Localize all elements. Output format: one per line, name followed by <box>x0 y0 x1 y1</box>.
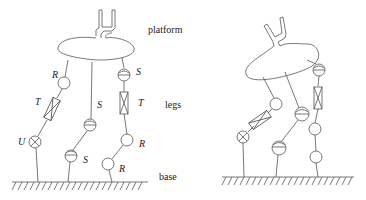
gripper-icon <box>96 10 115 38</box>
platform-label: platform <box>148 24 183 35</box>
revolute-joint-icon <box>309 123 321 135</box>
revolute-joint-icon <box>121 134 133 146</box>
platform-shape <box>58 33 134 60</box>
leg-3 <box>102 58 133 182</box>
joint-label: S <box>97 99 102 110</box>
universal-joint-icon <box>29 136 41 148</box>
spherical-joint-icon <box>118 69 130 81</box>
revolute-joint-icon <box>102 158 114 170</box>
prismatic-joint-icon <box>44 97 61 120</box>
spherical-joint-icon <box>84 119 96 131</box>
leg-1 <box>237 77 282 177</box>
left-figure: R T U S S S T R R platform legs base <box>12 10 183 190</box>
spherical-joint-icon <box>65 150 77 162</box>
joint-label: R <box>51 69 58 80</box>
joint-label: R <box>118 163 125 174</box>
revolute-joint-icon <box>310 151 322 163</box>
leg-2 <box>272 72 309 177</box>
spherical-joint-icon <box>313 64 325 76</box>
joint-label: U <box>18 136 26 147</box>
platform-shape <box>246 44 319 80</box>
legs-label: legs <box>165 99 181 110</box>
leg-3 <box>307 60 325 177</box>
universal-joint-icon <box>237 131 249 143</box>
joint-label: S <box>136 66 141 77</box>
joint-label: T <box>35 96 42 107</box>
prismatic-joint-icon <box>120 92 128 114</box>
joint-label: S <box>83 154 88 165</box>
revolute-joint-icon <box>270 98 282 110</box>
spherical-joint-icon <box>295 107 309 121</box>
base-hatching <box>222 177 352 185</box>
gripper-icon <box>264 17 286 46</box>
joint-label: T <box>138 97 145 108</box>
revolute-joint-icon <box>58 77 70 89</box>
right-figure <box>222 17 354 185</box>
base-hatching <box>12 182 142 190</box>
base-label: base <box>159 171 177 182</box>
leg-1 <box>29 60 70 182</box>
spherical-joint-icon <box>272 141 286 155</box>
parallel-robot-diagram: R T U S S S T R R platform legs base <box>0 0 366 200</box>
prismatic-joint-icon <box>314 87 322 109</box>
joint-label: R <box>138 138 145 149</box>
prismatic-joint-icon <box>249 110 272 129</box>
